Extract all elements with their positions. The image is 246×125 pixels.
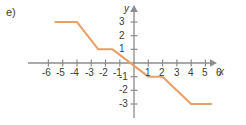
x-tick-label-neg1: -1	[113, 68, 122, 78]
x-tick-label-4: 4	[188, 68, 194, 78]
x-tick-label-1: 1	[145, 68, 151, 78]
y-tick-label-neg2: -2	[119, 85, 128, 95]
y-tick-label-2: 2	[119, 31, 125, 41]
y-tick-label-1: 1	[119, 44, 125, 54]
x-tick-label-neg6: -6	[42, 68, 51, 78]
x-tick-label-neg5: -5	[56, 68, 65, 78]
x-tick-label-3: 3	[174, 68, 180, 78]
x-tick-label-2: 2	[159, 68, 165, 78]
y-tick-label-3: 3	[119, 17, 125, 27]
x-tick-label-neg2: -2	[99, 68, 108, 78]
x-axis-arrow-icon	[210, 59, 217, 67]
x-tick-label-6: 6	[216, 68, 222, 78]
y-axis-label: y	[124, 4, 129, 14]
x-tick-label-neg4: -4	[70, 68, 79, 78]
x-tick-label-neg3: -3	[85, 68, 94, 78]
y-tick-label-neg3: -3	[119, 99, 128, 109]
y-axis-arrow-icon	[130, 5, 138, 12]
x-tick-label-5: 5	[202, 68, 208, 78]
item-label: e)	[6, 7, 16, 17]
